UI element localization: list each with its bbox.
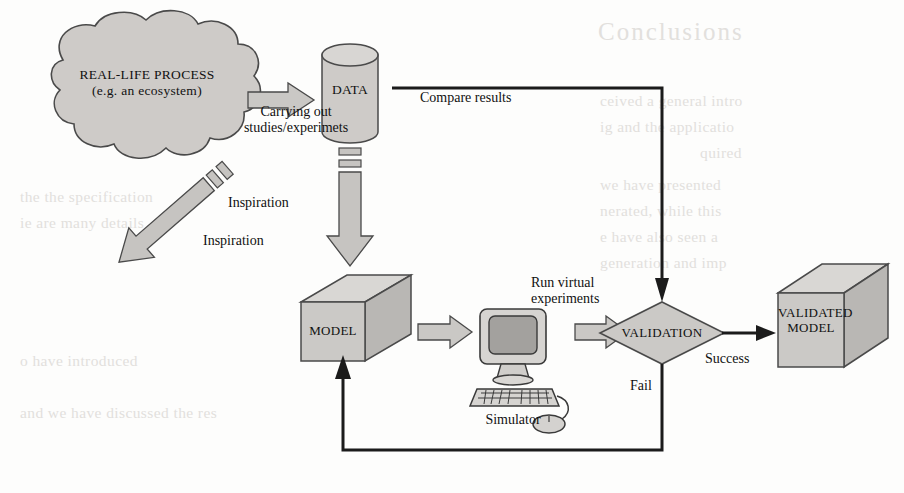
validated-model-line2: MODEL [778,321,844,336]
node-label-data: DATA [322,82,378,97]
edge-model-to-simulator-arrow [418,316,472,348]
node-label-model: MODEL [301,324,365,339]
edge-success-arrow [722,325,776,341]
node-label-simulator: Simulator [472,412,554,428]
edge-label-run-virtual-experiments: Run virtual experiments [531,275,599,306]
run-virtual-line2: experiments [531,291,599,307]
edge-inspiration-data-arrow [327,148,373,266]
edge-label-inspiration-cloud: Inspiration [203,233,264,249]
node-label-validation: VALIDATION [607,326,717,341]
carrying-out-line1: Carrying out [224,104,368,120]
node-label-validated-model: VALIDATED MODEL [778,306,844,335]
edge-label-compare-results: Compare results [420,90,511,106]
diagram-page: Conclusions ceived a general intro ig an… [0,0,904,493]
run-virtual-line1: Run virtual [531,275,599,291]
node-label-real-life-process: REAL-LIFE PROCESS (e.g. an ecosystem) [58,67,236,98]
real-life-process-line2: (e.g. an ecosystem) [58,83,236,98]
edge-compare-results-line [392,88,669,302]
node-model [301,275,411,361]
carrying-out-line2: studies/experimets [224,120,368,136]
edge-label-carrying-out: Carrying out studies/experimets [224,104,368,135]
validated-model-line1: VALIDATED [778,306,844,321]
edge-inspiration-cloud-arrow [106,153,240,277]
edge-label-success: Success [705,351,749,367]
real-life-process-line1: REAL-LIFE PROCESS [58,67,236,82]
edge-label-inspiration-data: Inspiration [228,195,289,211]
edge-label-fail: Fail [630,378,652,394]
